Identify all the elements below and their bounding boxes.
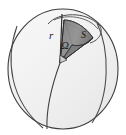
solid-angle-label: Ω — [61, 40, 69, 51]
solid-angle-sphere-figure: r S Ω — [0, 0, 126, 135]
sphere-diagram-svg — [0, 0, 126, 135]
surface-area-label: S — [81, 30, 86, 40]
radius-label: r — [49, 30, 53, 41]
